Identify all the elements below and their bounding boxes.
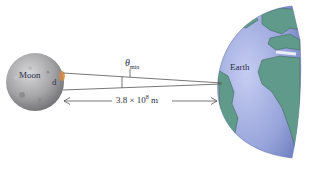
sight-lines xyxy=(63,69,222,90)
theta-subscript: min xyxy=(130,64,139,70)
earth-label: Earth xyxy=(230,62,250,72)
distance-label: 3.8 × 108 m xyxy=(116,94,158,105)
theta-min-label: θmin xyxy=(125,57,139,70)
moon-label: Moon xyxy=(19,70,41,80)
diagram-canvas xyxy=(0,0,322,169)
distance-mantissa: 3.8 × 10 xyxy=(116,95,146,105)
upper-sight-line xyxy=(63,73,222,83)
lower-sight-line xyxy=(63,84,222,90)
diameter-label: d xyxy=(52,77,57,87)
distance-unit: m xyxy=(149,95,158,105)
moon-diameter-highlight xyxy=(59,71,65,81)
earth xyxy=(218,6,301,158)
